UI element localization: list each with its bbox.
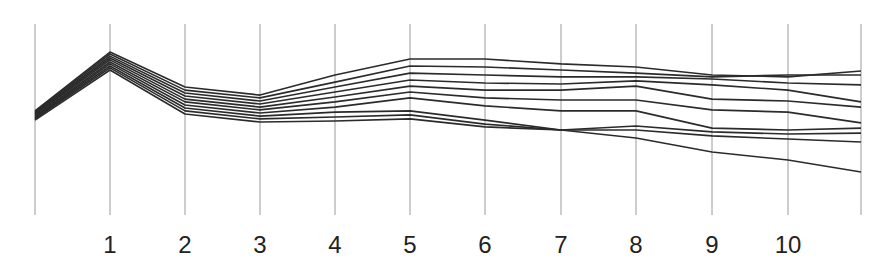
tick-label-7: 7 [554, 231, 567, 258]
tick-label-9: 9 [705, 231, 718, 258]
series-line-9 [35, 68, 861, 142]
tick-label-8: 8 [629, 231, 642, 258]
parallel-line-chart: 1 2 3 4 5 6 7 8 9 10 [0, 0, 892, 274]
tick-label-3: 3 [253, 231, 266, 258]
tick-label-6: 6 [478, 231, 491, 258]
series-line-3 [35, 56, 861, 113]
tick-label-5: 5 [403, 231, 416, 258]
series-line-6 [35, 62, 861, 123]
tick-label-1: 1 [103, 231, 116, 258]
tick-label-10: 10 [775, 231, 802, 258]
tick-labels: 1 2 3 4 5 6 7 8 9 10 [103, 231, 801, 258]
series-lines [35, 52, 861, 172]
tick-label-4: 4 [328, 231, 341, 258]
tick-label-2: 2 [178, 231, 191, 258]
